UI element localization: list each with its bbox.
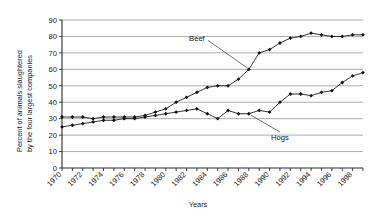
- chart-container: 0102030405060708090 19701972197419761978…: [0, 0, 384, 216]
- data-point-marker: [154, 113, 158, 117]
- data-point-marker: [247, 112, 251, 116]
- gridlines: [62, 20, 363, 152]
- data-point-marker: [299, 35, 303, 39]
- data-point-marker: [60, 125, 64, 129]
- y-tick-label: 70: [49, 49, 57, 58]
- x-tick-label: 1994: [294, 170, 312, 188]
- data-point-marker: [309, 31, 313, 35]
- x-tick-label: 1992: [273, 170, 291, 188]
- data-point-marker: [70, 123, 74, 127]
- y-axis-label-line1: Percent of animals slaughtered: [15, 50, 24, 152]
- x-tick-label: 1998: [336, 170, 354, 188]
- data-point-marker: [164, 112, 168, 116]
- y-axis-ticks: 0102030405060708090: [49, 16, 62, 173]
- data-point-marker: [205, 112, 209, 116]
- data-point-marker: [361, 71, 365, 75]
- data-point-marker: [330, 35, 334, 39]
- data-point-marker: [91, 120, 95, 124]
- data-point-marker: [340, 35, 344, 39]
- series-hogs: [60, 71, 365, 129]
- data-point-marker: [320, 90, 324, 94]
- series-line: [62, 33, 363, 119]
- annotation-leader-hogs: [251, 115, 280, 132]
- data-point-marker: [309, 94, 313, 98]
- x-tick-label: 1996: [315, 170, 333, 188]
- data-point-marker: [154, 110, 158, 114]
- x-tick-label: 1972: [66, 170, 84, 188]
- data-point-marker: [185, 95, 189, 99]
- line-chart: 0102030405060708090 19701972197419761978…: [0, 0, 384, 216]
- x-tick-label: 1978: [128, 170, 146, 188]
- x-tick-label: 1974: [87, 170, 105, 188]
- x-axis-label: Years: [189, 200, 208, 209]
- y-tick-label: 10: [49, 147, 57, 156]
- y-tick-label: 30: [49, 114, 57, 123]
- annotation-layer: BeefHogs: [189, 34, 289, 142]
- data-point-marker: [174, 110, 178, 114]
- data-point-marker: [299, 92, 303, 96]
- y-tick-label: 60: [49, 65, 57, 74]
- x-tick-label: 1990: [253, 170, 271, 188]
- x-tick-label: 1980: [149, 170, 167, 188]
- data-point-marker: [185, 109, 189, 113]
- x-tick-label: 1976: [107, 170, 125, 188]
- x-tick-label: 1988: [232, 170, 250, 188]
- data-point-marker: [81, 122, 85, 126]
- x-tick-label: 1970: [45, 170, 63, 188]
- data-point-marker: [257, 109, 261, 113]
- axis-lines: [62, 20, 363, 168]
- x-axis-ticks: 1970197219741976197819801982198419861988…: [45, 168, 363, 188]
- annotation-label-hogs: Hogs: [271, 133, 289, 142]
- y-tick-label: 80: [49, 32, 57, 41]
- data-point-marker: [91, 117, 95, 121]
- y-tick-label: 50: [49, 82, 57, 91]
- data-point-marker: [237, 112, 241, 116]
- data-point-marker: [216, 84, 220, 88]
- x-tick-label: 1984: [190, 170, 208, 188]
- annotation-label-beef: Beef: [189, 34, 206, 43]
- x-tick-label: 1982: [170, 170, 188, 188]
- data-point-marker: [195, 107, 199, 111]
- y-tick-label: 90: [49, 16, 57, 25]
- x-tick-label: 1986: [211, 170, 229, 188]
- series-beef: [60, 31, 365, 120]
- y-tick-label: 20: [49, 131, 57, 140]
- data-series-layer: [60, 31, 365, 129]
- y-axis-label-line2: by the four largest companies: [25, 55, 34, 152]
- annotation-leader-beef: [208, 40, 248, 68]
- y-tick-label: 40: [49, 98, 57, 107]
- data-point-marker: [195, 90, 199, 94]
